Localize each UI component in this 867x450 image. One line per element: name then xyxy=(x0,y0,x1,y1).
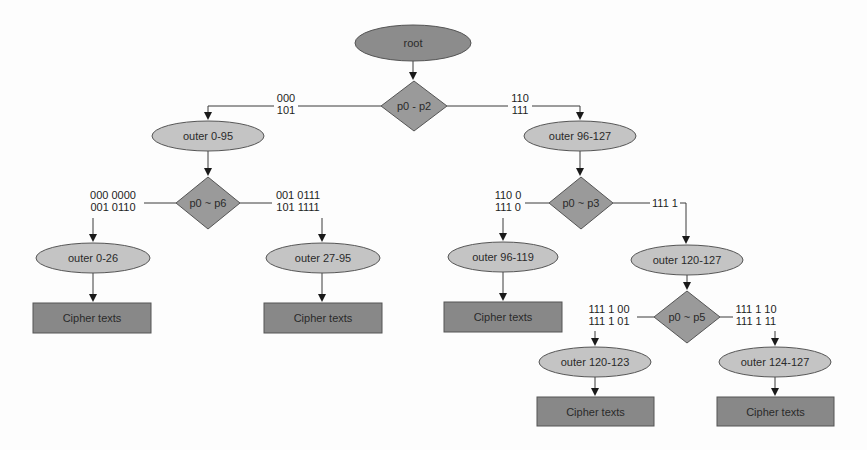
node-label: outer 120-123 xyxy=(561,356,630,368)
edge-label-l1: 000101 xyxy=(277,92,295,116)
node-label: outer 0-95 xyxy=(183,130,233,142)
connector-d2-o3 xyxy=(89,218,97,242)
range-node-o7: outer 120-123 xyxy=(539,347,651,377)
bit-pattern-label: 110 xyxy=(511,92,529,104)
decision-node-d2: p0 ~ p6 xyxy=(176,177,240,229)
bit-pattern-label: 111 1 10 xyxy=(735,303,776,315)
range-node-o2: outer 96-127 xyxy=(524,121,636,151)
connector-o6-d4 xyxy=(683,275,691,290)
node-label: Cipher texts xyxy=(63,312,122,324)
arrowhead-icon xyxy=(576,112,584,120)
connector-d1-o2 xyxy=(532,106,584,120)
range-node-o3: outer 0-26 xyxy=(36,243,150,273)
connector-o3-c1 xyxy=(89,273,97,302)
decision-node-d4: p0 ~ p5 xyxy=(654,291,720,343)
range-node-o6: outer 120-127 xyxy=(631,245,743,275)
node-label: outer 0-26 xyxy=(68,252,118,264)
bit-pattern-label: 111 xyxy=(512,104,529,116)
node-label: Cipher texts xyxy=(474,311,533,323)
bit-pattern-label: 101 1111 xyxy=(276,201,319,213)
node-label: p0 - p2 xyxy=(397,100,431,112)
arrowhead-icon xyxy=(499,233,507,241)
range-node-o8: outer 124-127 xyxy=(719,347,831,377)
arrowhead-icon xyxy=(683,282,691,290)
arrowhead-icon xyxy=(89,234,97,242)
connector-d3-o6 xyxy=(680,203,690,244)
arrowhead-icon xyxy=(771,338,779,346)
arrowhead-icon xyxy=(318,294,326,302)
cipher-texts-box-c4: Cipher texts xyxy=(537,397,654,426)
decision-node-d1: p0 - p2 xyxy=(381,81,447,131)
node-label: Cipher texts xyxy=(566,406,625,418)
cipher-texts-box-c5: Cipher texts xyxy=(717,397,834,426)
edge-label-l8: 111 1 10111 1 11 xyxy=(735,303,776,327)
bit-pattern-label: 111 1 xyxy=(652,197,678,209)
range-node-o4: outer 27-95 xyxy=(266,243,380,273)
connector-o2-d3 xyxy=(576,151,584,176)
range-node-o5: outer 96-119 xyxy=(448,242,558,272)
root-node-root: root xyxy=(355,25,471,61)
bit-pattern-label: 001 0111 xyxy=(276,189,320,201)
arrowhead-icon xyxy=(409,72,417,80)
decision-node-d3: p0 ~ p3 xyxy=(549,177,613,229)
connector-o5-c3 xyxy=(499,272,507,301)
edge-label-l3: 000 0000001 0110 xyxy=(90,189,136,213)
bit-pattern-label: 110 0 xyxy=(495,189,522,201)
arrowhead-icon xyxy=(682,236,690,244)
bit-pattern-label: 111 1 00 xyxy=(588,303,629,315)
edge-label-l2: 110111 xyxy=(511,92,529,116)
node-label: outer 96-119 xyxy=(472,251,534,263)
connector-d4-o8 xyxy=(771,331,779,346)
arrowhead-icon xyxy=(591,388,599,396)
decision-tree-diagram: rootp0 - p2outer 0-95outer 96-127p0 ~ p6… xyxy=(0,0,867,450)
node-label: outer 96-127 xyxy=(549,130,611,142)
connector-o7-c4 xyxy=(591,377,599,396)
bit-pattern-label: 101 xyxy=(277,104,295,116)
arrowhead-icon xyxy=(499,293,507,301)
connector-root-d1 xyxy=(409,61,417,80)
nodes-layer: rootp0 - p2outer 0-95outer 96-127p0 ~ p6… xyxy=(33,25,834,426)
cipher-texts-box-c2: Cipher texts xyxy=(264,303,382,333)
node-label: outer 27-95 xyxy=(295,252,351,264)
arrowhead-icon xyxy=(591,338,599,346)
edge-label-l5: 110 0111 0 xyxy=(495,189,522,213)
diagram-canvas: rootp0 - p2outer 0-95outer 96-127p0 ~ p6… xyxy=(0,0,867,450)
connector-o4-c2 xyxy=(318,273,326,302)
arrowhead-icon xyxy=(89,294,97,302)
arrowhead-icon xyxy=(318,234,326,242)
arrowhead-icon xyxy=(204,112,212,120)
connector-o8-c5 xyxy=(771,377,779,396)
bit-pattern-label: 111 1 01 xyxy=(588,315,629,327)
edge-label-l6: 111 1 xyxy=(652,197,678,209)
connector-d4-o7 xyxy=(591,331,599,346)
bit-pattern-label: 111 1 11 xyxy=(736,315,776,327)
bit-pattern-label: 000 xyxy=(277,92,295,104)
cipher-texts-box-c1: Cipher texts xyxy=(33,303,151,333)
node-label: Cipher texts xyxy=(294,312,353,324)
cipher-texts-box-c3: Cipher texts xyxy=(444,302,562,332)
bit-pattern-label: 111 0 xyxy=(495,201,521,213)
edge-label-l7: 111 1 00111 1 01 xyxy=(588,303,629,327)
edge-label-l4: 001 0111101 1111 xyxy=(276,189,320,213)
connector-o1-d2 xyxy=(204,151,212,176)
range-node-o1: outer 0-95 xyxy=(152,121,264,151)
arrowhead-icon xyxy=(576,168,584,176)
bit-pattern-label: 001 0110 xyxy=(90,201,135,213)
node-label: outer 124-127 xyxy=(741,356,810,368)
node-label: p0 ~ p6 xyxy=(189,197,226,209)
arrowhead-icon xyxy=(771,388,779,396)
node-label: Cipher texts xyxy=(746,406,805,418)
connector-d2-o4 xyxy=(318,218,326,242)
node-label: p0 ~ p3 xyxy=(562,197,599,209)
connector-d1-o1 xyxy=(204,106,274,120)
arrowhead-icon xyxy=(204,168,212,176)
node-label: root xyxy=(404,37,423,49)
node-label: outer 120-127 xyxy=(653,254,722,266)
bit-pattern-label: 000 0000 xyxy=(90,189,136,201)
connector-d3-o5 xyxy=(499,218,507,241)
node-label: p0 ~ p5 xyxy=(668,311,705,323)
